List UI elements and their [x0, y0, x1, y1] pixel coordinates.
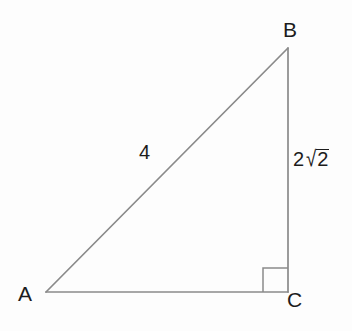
radical-coefficient: 2: [293, 149, 304, 169]
side-length-label-leg-bc: 2 √2: [293, 148, 328, 170]
vertex-label-a: A: [18, 283, 32, 304]
radical-group: √2: [304, 148, 328, 170]
vertex-label-b: B: [283, 19, 297, 40]
right-triangle-figure: A B C 4 2 √2: [0, 0, 352, 331]
radical-expression: 2 √2: [293, 148, 328, 170]
side-length-label-hypotenuse: 4: [139, 142, 150, 162]
radicand: 2: [317, 148, 328, 169]
right-angle-marker-icon: [263, 268, 288, 292]
side-hypotenuse-ab: [46, 48, 288, 292]
vertex-label-c: C: [287, 289, 302, 310]
radical-sign-icon: √: [306, 148, 316, 170]
